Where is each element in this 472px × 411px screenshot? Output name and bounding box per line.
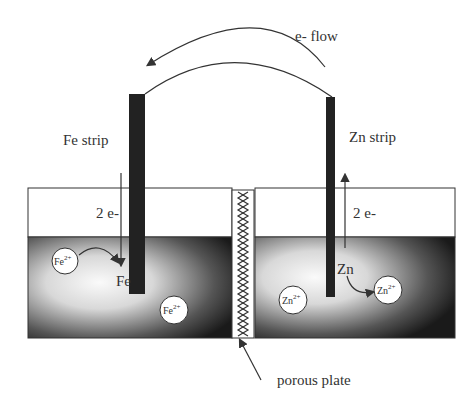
right-solution	[255, 237, 455, 338]
galvanic-cell-diagram: e- flow Fe strip Zn strip 2 e- Fe 2 e- Z…	[0, 0, 472, 411]
zn-strip	[326, 97, 335, 297]
porous-plate-label: porous plate	[277, 372, 351, 388]
porous-plate-pointer	[240, 340, 261, 380]
zn-ion: Zn2+	[374, 276, 402, 304]
fe-strip-label: Fe strip	[63, 132, 108, 148]
zn-strip-label: Zn strip	[349, 129, 396, 145]
fe-atom-label: Fe	[116, 273, 131, 289]
fe-ion: Fe2+	[160, 296, 188, 324]
zn-ion: Zn2+	[279, 286, 307, 314]
zn-atom-label: Zn	[337, 261, 354, 277]
right-electrons-label: 2 e-	[353, 205, 376, 221]
fe-strip	[129, 94, 145, 294]
porous-plate	[232, 190, 254, 338]
left-electrons-label: 2 e-	[96, 205, 119, 221]
fe-ion: Fe2+	[52, 248, 78, 274]
electron-flow-label: e- flow	[295, 28, 338, 44]
wire	[145, 63, 332, 97]
